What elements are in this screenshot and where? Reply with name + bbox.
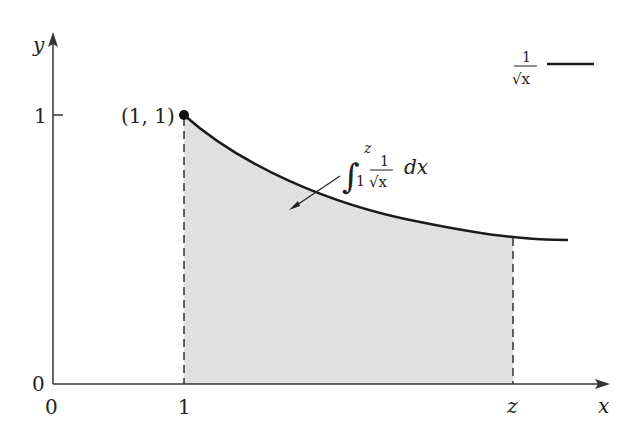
y-axis-label: y xyxy=(32,33,45,57)
integral-differential: dx xyxy=(404,155,428,179)
integral-lower-limit: 1 xyxy=(356,173,365,189)
integral-diagram: y 1 0 0 1 z x (1, 1) ∫ z 1 1 √x dx 1 √x xyxy=(0,0,634,428)
legend-numerator: 1 xyxy=(522,49,531,65)
y-tick-label-1: 1 xyxy=(34,104,47,128)
point-1-1 xyxy=(179,110,189,120)
y-origin-label: 0 xyxy=(32,372,45,396)
x-origin-label: 0 xyxy=(45,395,58,419)
x-axis-label: x xyxy=(598,394,609,418)
point-label: (1, 1) xyxy=(121,104,175,128)
x-tick-label-1: 1 xyxy=(178,395,191,419)
integral-numerator: 1 xyxy=(380,153,389,169)
integral-upper-limit: z xyxy=(363,140,372,156)
integral-denominator: √x xyxy=(369,173,388,191)
x-tick-label-z: z xyxy=(506,394,518,418)
legend-denominator: √x xyxy=(512,70,531,88)
